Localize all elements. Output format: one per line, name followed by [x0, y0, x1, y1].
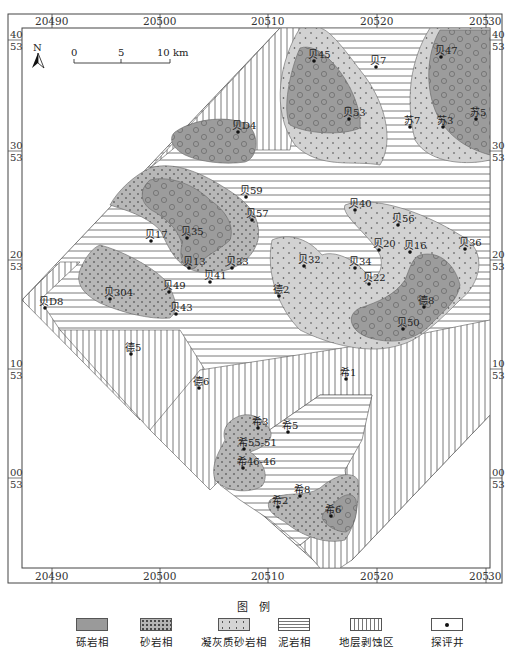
- tuff-swatch-icon: [218, 618, 250, 631]
- legend: 图 例 砾岩相 砂岩相 凝灰质砂岩相 泥岩相 地层剥蚀区 探评井: [0, 590, 511, 658]
- svg-text:30: 30: [10, 140, 23, 151]
- well-label: 贝22: [363, 272, 386, 283]
- svg-text:N: N: [33, 42, 42, 53]
- well-label: 德8: [418, 294, 434, 306]
- gravel-swatch-icon: [76, 618, 108, 631]
- svg-text:20: 20: [492, 249, 505, 260]
- legend-item-eroded: 地层剥蚀区: [318, 618, 414, 649]
- legend-title: 图 例: [0, 598, 511, 614]
- legend-label: 凝灰质砂岩相: [201, 636, 267, 648]
- well-label: 贝45: [308, 49, 331, 60]
- svg-text:53: 53: [10, 479, 23, 490]
- axis-label: 30: [488, 570, 501, 582]
- legend-label: 探评井: [431, 636, 464, 648]
- well-label: 希1: [340, 366, 356, 378]
- svg-text:53: 53: [10, 41, 23, 52]
- well-label: 贝43: [170, 302, 193, 313]
- well-label: 德5: [125, 341, 141, 353]
- well-label: 贝36: [459, 237, 482, 248]
- svg-text:53: 53: [492, 41, 505, 52]
- well-label: 贝50: [397, 317, 420, 328]
- axis-label: 10: [271, 15, 284, 27]
- facies-map: 204 90 205 00 205 10 205 20 205 30 204 9…: [0, 0, 511, 590]
- well-label: 贝32: [298, 254, 321, 265]
- well-label: 苏7: [404, 114, 420, 126]
- svg-text:53: 53: [492, 479, 505, 490]
- eroded-swatch-icon: [350, 618, 382, 631]
- well-label: 希55-51: [238, 436, 277, 448]
- legend-item-sandstone: 砂岩相: [126, 618, 186, 649]
- sandstone-swatch-icon: [140, 618, 172, 631]
- well-label: 贝40: [349, 198, 372, 209]
- well-label: 贝D4: [232, 120, 256, 131]
- legend-label: 砾岩相: [76, 636, 109, 648]
- well-label: 贝47: [435, 45, 458, 56]
- well-label: 贝53: [343, 107, 366, 118]
- svg-text:10 km: 10 km: [157, 47, 189, 58]
- well-label: 贝17: [145, 229, 168, 240]
- legend-item-gravel: 砾岩相: [62, 618, 122, 649]
- well-label: 贝57: [246, 208, 269, 219]
- well-label: 德6: [193, 375, 209, 387]
- well-label: 贝304: [104, 287, 133, 298]
- legend-label: 泥岩相: [278, 636, 311, 648]
- well-label: 贝41: [204, 270, 227, 281]
- well-label: 贝13: [183, 256, 206, 267]
- well-label: 苏5: [470, 106, 486, 118]
- well-label: 贝56: [392, 213, 415, 224]
- well-swatch-icon: [431, 618, 463, 631]
- well-label: 希2: [272, 494, 288, 506]
- svg-text:53: 53: [10, 152, 23, 163]
- legend-label: 地层剥蚀区: [339, 636, 394, 648]
- axis-label: 00: [163, 15, 176, 27]
- axis-label: 00: [163, 570, 176, 582]
- legend-label: 砂岩相: [140, 636, 173, 648]
- svg-text:30: 30: [492, 140, 505, 151]
- axis-label: 20: [380, 15, 393, 27]
- svg-text:5: 5: [118, 47, 124, 58]
- well-label: 贝20: [373, 238, 396, 249]
- well-label: 希8: [294, 483, 310, 495]
- svg-text:53: 53: [10, 370, 23, 381]
- svg-text:0: 0: [71, 47, 77, 58]
- svg-text:53: 53: [492, 152, 505, 163]
- svg-text:53: 53: [492, 261, 505, 272]
- well-label: 苏3: [437, 114, 453, 126]
- svg-text:40: 40: [10, 29, 23, 40]
- well-label: 贝D8: [39, 296, 63, 307]
- well-label: 希6: [325, 503, 341, 515]
- axis-label: 20: [380, 570, 393, 582]
- svg-text:53: 53: [10, 261, 23, 272]
- legend-item-well: 探评井: [412, 618, 482, 649]
- svg-text:40: 40: [492, 29, 505, 40]
- legend-item-mudstone: 泥岩相: [264, 618, 324, 649]
- well-label: 德2: [273, 283, 289, 295]
- svg-text:00: 00: [10, 467, 23, 478]
- axis-label: 90: [55, 15, 68, 27]
- well-label: 贝35: [181, 226, 204, 237]
- mudstone-swatch-icon: [278, 618, 310, 631]
- svg-text:00: 00: [492, 467, 505, 478]
- svg-text:53: 53: [492, 370, 505, 381]
- well-label: 贝33: [226, 256, 249, 267]
- svg-text:10: 10: [10, 358, 23, 369]
- well-label: 贝59: [240, 185, 263, 196]
- well-label: 贝49: [163, 280, 186, 291]
- well-label: 希5: [282, 419, 298, 431]
- well-label: 希46-46: [237, 455, 276, 467]
- axis-label: 10: [271, 570, 284, 582]
- well-label: 贝16: [404, 240, 427, 251]
- well-label: 贝7: [370, 55, 386, 66]
- well-label: 希3: [252, 415, 268, 427]
- axis-label: 30: [488, 15, 501, 27]
- axis-label: 90: [55, 570, 68, 582]
- well-label: 贝34: [349, 256, 372, 267]
- svg-text:20: 20: [10, 249, 23, 260]
- svg-text:10: 10: [492, 358, 505, 369]
